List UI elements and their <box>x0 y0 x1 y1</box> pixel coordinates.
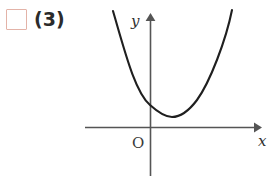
coordinate-plane-svg: y x O <box>80 0 279 179</box>
y-axis-arrowhead <box>146 13 156 21</box>
origin-label: O <box>132 134 144 152</box>
option-row[interactable]: (3) <box>0 0 80 44</box>
y-axis-label: y <box>130 12 140 30</box>
parabola-figure: y x O <box>80 0 279 179</box>
option-label: (3) <box>34 5 65 33</box>
x-axis-arrowhead <box>254 123 262 133</box>
option-checkbox[interactable] <box>6 9 27 30</box>
x-axis-label: x <box>258 132 267 150</box>
figure-option-panel: (3) y x O <box>0 0 279 179</box>
